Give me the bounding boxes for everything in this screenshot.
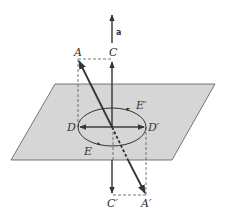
vector-a-prime	[128, 160, 145, 193]
label-d: D	[66, 121, 76, 134]
label-d-prime: D′	[147, 121, 160, 134]
label-e: E	[83, 145, 92, 158]
normal-label: a	[116, 28, 121, 37]
label-c: C	[109, 46, 118, 59]
label-a-prime: A′	[140, 197, 152, 210]
label-a: A	[73, 46, 82, 59]
label-c-prime: C′	[107, 197, 118, 210]
reflection-diagram: a A C D D′ E E′ C′ A′	[0, 0, 227, 214]
label-e-prime: E′	[135, 99, 147, 112]
normal-vector-a: a	[112, 15, 121, 43]
